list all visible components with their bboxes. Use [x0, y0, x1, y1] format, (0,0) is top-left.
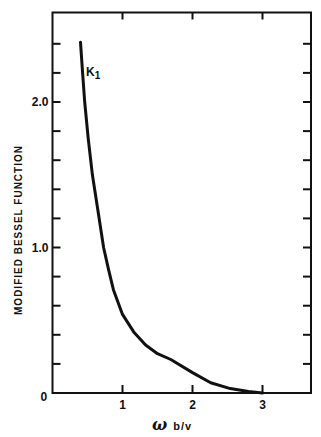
x-tick-label: 0 [41, 390, 48, 404]
x-tick-label: 3 [259, 398, 266, 412]
omega-symbol: ω [152, 415, 168, 434]
x-tick-label: 2 [189, 398, 196, 412]
x-tick-label: 1 [119, 398, 126, 412]
series-label-k1: K1 [86, 65, 101, 81]
y-tick-label: 2.0 [32, 95, 49, 109]
bessel-function-chart: 0123 1.02.0 K1 ωb/v MODIFIED BESSEL FUNC… [0, 0, 321, 437]
series-label-sub: 1 [95, 70, 101, 81]
x-axis-title-rest: b/v [173, 420, 192, 432]
y-tick-label: 1.0 [32, 241, 49, 255]
k1-curve [81, 42, 263, 393]
series-label-main: K [86, 65, 95, 79]
y-axis-ticks: 1.02.0 [32, 44, 311, 364]
x-axis-title: ωb/v [152, 415, 192, 434]
y-axis-title: MODIFIED BESSEL FUNCTION [13, 145, 24, 315]
